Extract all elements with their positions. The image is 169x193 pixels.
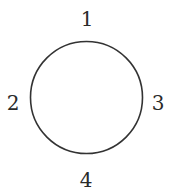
label-bottom: 4	[80, 168, 93, 192]
circle-diagram: 1 2 3 4	[0, 0, 169, 193]
circle	[31, 42, 143, 154]
label-top: 1	[81, 7, 94, 31]
label-left: 2	[7, 91, 20, 115]
label-right: 3	[152, 91, 165, 115]
